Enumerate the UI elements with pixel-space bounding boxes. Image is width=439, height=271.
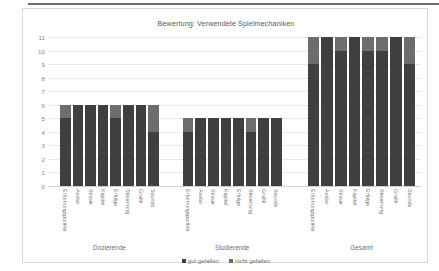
- bar[interactable]: [60, 37, 71, 186]
- x-axis-tick: Erfolge: [110, 188, 121, 244]
- chart-container: Bewertung: Verwendete Spielmechaniken 11…: [22, 8, 428, 263]
- legend-item[interactable]: gut gefallen: [182, 258, 219, 264]
- x-axis-tick-label: Erfolge: [365, 189, 371, 206]
- x-axis-tick: Steuerung: [376, 188, 388, 244]
- bar-segment-nicht-gefallen: [148, 105, 159, 132]
- x-axis-tick-label: Steuerung: [248, 189, 254, 214]
- bar[interactable]: [258, 37, 269, 186]
- legend-item[interactable]: nicht gefallen: [229, 258, 270, 264]
- bar-segment-gut-gefallen: [271, 118, 282, 186]
- bar-segment-gut-gefallen: [246, 132, 257, 186]
- x-axis-tick-label: Streak: [338, 189, 344, 205]
- bar-segment-gut-gefallen: [85, 105, 96, 186]
- bar[interactable]: [308, 37, 320, 186]
- legend-label: gut gefallen: [188, 258, 219, 264]
- bar-segment-gut-gefallen: [349, 37, 361, 186]
- x-axis-tick: Erfolge: [233, 188, 244, 244]
- bar[interactable]: [271, 37, 282, 186]
- bar-segment-gut-gefallen: [308, 64, 320, 186]
- bar[interactable]: [208, 37, 219, 186]
- plot-area: 11109876543210: [49, 37, 421, 186]
- bar[interactable]: [183, 37, 194, 186]
- chart-legend: gut gefallennicht gefallen: [23, 258, 429, 264]
- bar[interactable]: [136, 37, 147, 186]
- x-axis-tick-label: Kapitel: [352, 189, 358, 205]
- x-axis-tick: Avatar: [195, 188, 206, 244]
- bar[interactable]: [221, 37, 232, 186]
- page-top-rule: [28, 3, 439, 5]
- x-axis-tick: Kapitel: [98, 188, 109, 244]
- bar[interactable]: [110, 37, 121, 186]
- x-axis-tick-label: Kapitel: [100, 189, 106, 205]
- bar[interactable]: [195, 37, 206, 186]
- bar-segment-gut-gefallen: [123, 105, 134, 186]
- x-axis-tick-label: Sounds: [273, 189, 279, 207]
- x-axis-tick: Grafik: [258, 188, 269, 244]
- x-axis-tick-label: Erfahrungspunkte: [185, 189, 191, 232]
- y-axis-tick-label: 5: [42, 115, 45, 122]
- group-label-gesamt: Gesamt: [308, 244, 416, 251]
- x-axis-tick: Sounds: [271, 188, 282, 244]
- bar-segment-gut-gefallen: [390, 37, 402, 186]
- category-labels-gesamt: ErfahrungspunkteAvatarStreakKapitelErfol…: [308, 188, 416, 244]
- x-axis-tick: Grafik: [390, 188, 402, 244]
- bar-segment-gut-gefallen: [60, 118, 71, 186]
- x-axis-tick: Kapitel: [349, 188, 361, 244]
- x-axis-tick-label: Steuerung: [379, 189, 385, 214]
- x-axis-tick: Avatar: [73, 188, 84, 244]
- bar[interactable]: [362, 37, 374, 186]
- bar-segment-gut-gefallen: [233, 118, 244, 186]
- x-axis-tick-label: Avatar: [198, 189, 204, 204]
- x-axis-tick: Steuerung: [123, 188, 134, 244]
- bar-segment-nicht-gefallen: [335, 37, 347, 51]
- bar[interactable]: [85, 37, 96, 186]
- x-axis-tick-label: Grafik: [393, 189, 399, 203]
- x-axis-tick-label: Erfolge: [236, 189, 242, 206]
- group-label-studierende: Studierende: [183, 244, 282, 251]
- bar-segment-gut-gefallen: [148, 132, 159, 186]
- bar[interactable]: [404, 37, 416, 186]
- bar-segment-gut-gefallen: [258, 118, 269, 186]
- x-axis-tick-label: Erfolge: [113, 189, 119, 206]
- x-axis-tick: Sounds: [148, 188, 159, 244]
- bar[interactable]: [376, 37, 388, 186]
- bar-group-dozierende: [60, 37, 159, 186]
- bar-group-gesamt: [308, 37, 416, 186]
- bar[interactable]: [321, 37, 333, 186]
- bar[interactable]: [349, 37, 361, 186]
- bar[interactable]: [73, 37, 84, 186]
- legend-swatch-icon: [182, 259, 186, 263]
- x-axis-tick: Erfahrungspunkte: [183, 188, 194, 244]
- bar[interactable]: [335, 37, 347, 186]
- bar-segment-nicht-gefallen: [110, 105, 121, 119]
- y-axis-tick-label: 4: [42, 128, 45, 135]
- bar-segment-gut-gefallen: [183, 132, 194, 186]
- x-axis-tick: Erfahrungspunkte: [60, 188, 71, 244]
- y-axis-tick-label: 1: [42, 169, 45, 176]
- x-axis-tick: Erfolge: [362, 188, 374, 244]
- x-axis-tick-label: Grafik: [138, 189, 144, 203]
- bar-segment-gut-gefallen: [110, 118, 121, 186]
- y-axis-tick-label: 11: [39, 34, 45, 41]
- x-axis-tick: Streak: [85, 188, 96, 244]
- category-labels-dozierende: ErfahrungspunkteAvatarStreakKapitelErfol…: [60, 188, 159, 244]
- bar-segment-gut-gefallen: [376, 51, 388, 186]
- bar[interactable]: [148, 37, 159, 186]
- bar[interactable]: [123, 37, 134, 186]
- x-axis-tick: Grafik: [136, 188, 147, 244]
- x-axis-tick: Streak: [208, 188, 219, 244]
- x-axis-tick: Steuerung: [246, 188, 257, 244]
- bar[interactable]: [390, 37, 402, 186]
- bar-group-studierende: [183, 37, 282, 186]
- bar[interactable]: [246, 37, 257, 186]
- bar[interactable]: [98, 37, 109, 186]
- group-label-layer: DozierendeStudierendeGesamt: [49, 244, 421, 256]
- bar-segment-gut-gefallen: [321, 37, 333, 186]
- y-axis-tick-label: 9: [42, 61, 45, 68]
- bar[interactable]: [233, 37, 244, 186]
- x-axis-tick-label: Erfahrungspunkte: [310, 189, 316, 232]
- x-axis-tick-label: Streak: [88, 189, 94, 205]
- x-axis-tick-label: Avatar: [324, 189, 330, 204]
- bar-segment-gut-gefallen: [195, 118, 206, 186]
- bar-segment-gut-gefallen: [221, 118, 232, 186]
